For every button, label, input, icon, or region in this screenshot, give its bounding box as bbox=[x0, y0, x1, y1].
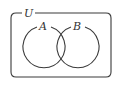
universe-label: U bbox=[24, 7, 34, 20]
venn-diagram: U A B bbox=[0, 0, 117, 90]
set-a-circle bbox=[23, 27, 65, 68]
universe-rectangle bbox=[11, 13, 111, 77]
set-b-label: B bbox=[72, 20, 81, 33]
set-b-circle bbox=[57, 27, 99, 68]
set-a-label: A bbox=[38, 20, 47, 33]
